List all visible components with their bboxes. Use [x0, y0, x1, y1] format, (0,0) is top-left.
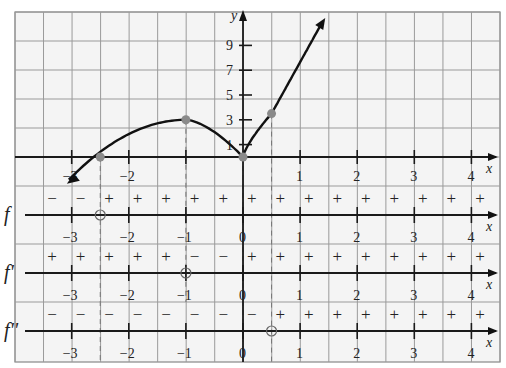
key-point — [239, 153, 248, 162]
x-tick-label: −1 — [177, 230, 192, 245]
x-tick-label: −3 — [63, 230, 78, 245]
sign-minus: − — [218, 247, 228, 266]
sign-plus: + — [304, 247, 314, 266]
x-tick-label: −3 — [63, 288, 78, 303]
y-tick-label: 5 — [226, 88, 233, 103]
x-tick-label: −2 — [120, 288, 135, 303]
y-axis-label: y — [229, 8, 238, 23]
x-tick-label: 3 — [410, 346, 417, 361]
sign-plus: + — [247, 189, 257, 208]
key-point — [181, 115, 190, 124]
sign-plus: + — [304, 305, 314, 324]
x-tick-label: 2 — [353, 288, 360, 303]
x-axis-label: x — [485, 219, 493, 234]
x-tick-label: 0 — [239, 346, 246, 361]
x-tick-label: −2 — [120, 169, 135, 184]
sign-plus: + — [361, 247, 371, 266]
x-tick-label: 1 — [296, 169, 303, 184]
row-label-f_prime: f' — [4, 261, 15, 284]
sign-plus: + — [333, 189, 343, 208]
x-tick-label: 1 — [296, 230, 303, 245]
sign-minus: − — [190, 247, 200, 266]
sign-plus: + — [418, 247, 428, 266]
sign-plus: + — [104, 247, 114, 266]
x-tick-label: 2 — [353, 230, 360, 245]
sign-plus: + — [190, 189, 200, 208]
sign-plus: + — [275, 305, 285, 324]
sign-minus: − — [76, 189, 86, 208]
sign-plus: + — [390, 305, 400, 324]
x-tick-label: 0 — [239, 230, 246, 245]
sign-plus: + — [76, 247, 86, 266]
y-tick-label: 7 — [226, 63, 233, 78]
row-label-f: f — [4, 203, 12, 226]
x-tick-label: −3 — [63, 346, 78, 361]
sign-plus: + — [133, 189, 143, 208]
sign-plus: + — [304, 189, 314, 208]
x-tick-label: 4 — [467, 169, 474, 184]
x-tick-label: 2 — [353, 169, 360, 184]
x-tick-label: −2 — [120, 230, 135, 245]
sign-plus: + — [275, 189, 285, 208]
sign-plus: + — [333, 247, 343, 266]
x-tick-label: 0 — [239, 288, 246, 303]
sign-plus: + — [447, 189, 457, 208]
x-axis-label: x — [485, 335, 493, 350]
sign-minus: − — [190, 305, 200, 324]
function-sign-chart-figure: xy13579−3−21234 xf−3−2−101234−−+++++++++… — [0, 0, 506, 368]
sign-plus: + — [361, 189, 371, 208]
sign-plus: + — [161, 189, 171, 208]
sign-plus: + — [447, 247, 457, 266]
sign-plus: + — [418, 305, 428, 324]
sign-plus: + — [333, 305, 343, 324]
x-tick-label: 4 — [467, 230, 474, 245]
y-tick-label: 9 — [226, 38, 233, 53]
sign-plus: + — [475, 305, 485, 324]
sign-minus: − — [133, 305, 143, 324]
x-axis-label: x — [485, 277, 493, 292]
sign-plus: + — [47, 247, 57, 266]
sign-plus: + — [247, 247, 257, 266]
sign-plus: + — [475, 247, 485, 266]
x-tick-label: −1 — [177, 288, 192, 303]
x-axis-label: x — [485, 161, 493, 176]
sign-minus: − — [218, 305, 228, 324]
x-tick-label: 4 — [467, 346, 474, 361]
sign-plus: + — [133, 247, 143, 266]
x-tick-label: 3 — [410, 288, 417, 303]
sign-minus: − — [161, 305, 171, 324]
sign-plus: + — [390, 247, 400, 266]
y-tick-label: 3 — [226, 113, 233, 128]
x-tick-label: 4 — [467, 288, 474, 303]
sign-minus: − — [247, 305, 257, 324]
x-tick-label: −2 — [120, 346, 135, 361]
sign-plus: + — [418, 189, 428, 208]
sign-plus: + — [390, 189, 400, 208]
sign-plus: + — [361, 305, 371, 324]
sign-minus: − — [47, 189, 57, 208]
x-tick-label: 1 — [296, 288, 303, 303]
x-tick-label: 1 — [296, 346, 303, 361]
sign-plus: + — [447, 305, 457, 324]
sign-plus: + — [275, 247, 285, 266]
key-point — [96, 153, 105, 162]
x-tick-label: −1 — [177, 346, 192, 361]
x-tick-label: 3 — [410, 169, 417, 184]
row-label-f_double_prime: f'' — [4, 319, 19, 342]
sign-plus: + — [104, 189, 114, 208]
key-point — [267, 109, 276, 118]
sign-minus: − — [104, 305, 114, 324]
x-tick-label: 3 — [410, 230, 417, 245]
sign-plus: + — [161, 247, 171, 266]
sign-minus: − — [47, 305, 57, 324]
sign-plus: + — [475, 189, 485, 208]
sign-plus: + — [218, 189, 228, 208]
sign-minus: − — [76, 305, 86, 324]
x-tick-label: 2 — [353, 346, 360, 361]
